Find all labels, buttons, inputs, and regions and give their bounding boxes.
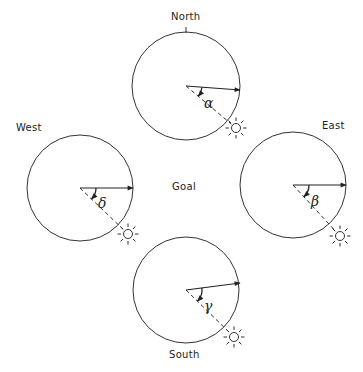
compass-panel-east: Eastβ <box>240 120 351 247</box>
south-angle-arc-icon <box>197 288 202 301</box>
sun-icon <box>330 226 351 247</box>
north-angle-symbol: α <box>204 95 214 111</box>
compass-panel-north: Northα <box>132 11 247 140</box>
compass-panel-south: Southγ <box>133 237 245 360</box>
north-label: North <box>171 11 200 22</box>
east-angle-symbol: β <box>310 193 319 209</box>
west-angle-symbol: δ <box>98 195 106 211</box>
south-label: South <box>169 349 200 360</box>
east-label: East <box>322 120 345 131</box>
goal-label: Goal <box>172 181 196 192</box>
west-label: West <box>16 122 42 133</box>
compass-panel-west: Westδ <box>16 122 139 245</box>
east-angle-arc-icon <box>304 185 309 197</box>
west-angle-arc-icon <box>92 188 96 199</box>
sun-icon <box>224 327 245 348</box>
north-angle-arc-icon <box>198 87 202 96</box>
south-angle-symbol: γ <box>204 298 213 314</box>
sun-icon <box>118 224 139 245</box>
south-heading-arrow-icon <box>186 283 240 290</box>
sun-icon <box>226 118 247 139</box>
north-heading-arrow-icon <box>186 86 240 90</box>
sun-compass-diagram: Goal NorthαWestδEastβSouthγ <box>0 0 363 372</box>
